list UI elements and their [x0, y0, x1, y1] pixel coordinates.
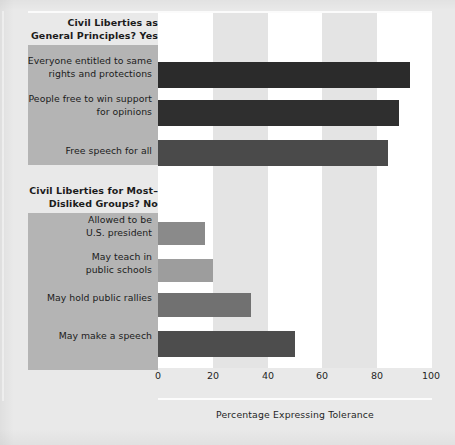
x-axis-tick-label: 100	[416, 370, 446, 381]
group-heading-line-2: General Principles? Yes	[22, 29, 158, 42]
group-heading-disliked-groups: Civil Liberties for Most– Disliked Group…	[22, 184, 158, 210]
bar	[158, 293, 251, 317]
group-heading-line-2: Disliked Groups? No	[22, 197, 158, 210]
x-axis-tick-label: 80	[362, 370, 392, 381]
x-axis-tick-label: 60	[307, 370, 337, 381]
x-axis-tick-label: 40	[253, 370, 283, 381]
plot-area	[158, 13, 432, 368]
bar-category-label-line-2: U.S. president	[22, 227, 152, 240]
bar-category-label-line-1: People free to win support	[22, 93, 152, 106]
x-axis-title: Percentage Expressing Tolerance	[158, 409, 432, 420]
bar-category-label: Free speech for all	[22, 145, 152, 158]
group-heading-line-1: Civil Liberties for Most–	[22, 184, 158, 197]
bar-category-label: May hold public rallies	[22, 292, 152, 305]
bar-category-label: May make a speech	[22, 330, 152, 343]
bar	[158, 100, 399, 126]
bar	[158, 259, 213, 282]
x-axis-tick-label: 20	[198, 370, 228, 381]
bar-category-label-line-2: for opinions	[22, 106, 152, 119]
chart-figure: Civil Liberties as General Principles? Y…	[0, 0, 455, 445]
bar-category-label-line-1: May make a speech	[22, 330, 152, 343]
bar	[158, 140, 388, 166]
bar-category-label-line-1: May teach in	[22, 251, 152, 264]
bar-category-label: Allowed to be U.S. president	[22, 214, 152, 239]
group-heading-general-principles: Civil Liberties as General Principles? Y…	[22, 16, 158, 42]
bar-category-label: People free to win support for opinions	[22, 93, 152, 118]
bar	[158, 331, 295, 357]
bar-category-label: Everyone entitled to same rights and pro…	[22, 55, 152, 80]
bar-category-label-line-2: rights and protections	[22, 68, 152, 81]
x-axis-tick-label: 0	[143, 370, 173, 381]
bar	[158, 222, 205, 245]
group-heading-line-1: Civil Liberties as	[22, 16, 158, 29]
left-rule-divider	[2, 11, 4, 401]
bar	[158, 62, 410, 88]
bottom-rule-divider	[158, 398, 432, 400]
bar-category-label-line-1: Everyone entitled to same	[22, 55, 152, 68]
bar-category-label: May teach in public schools	[22, 251, 152, 276]
bar-category-label-line-1: May hold public rallies	[22, 292, 152, 305]
bar-category-label-line-1: Free speech for all	[22, 145, 152, 158]
bar-category-label-line-2: public schools	[22, 264, 152, 277]
bar-category-label-line-1: Allowed to be	[22, 214, 152, 227]
